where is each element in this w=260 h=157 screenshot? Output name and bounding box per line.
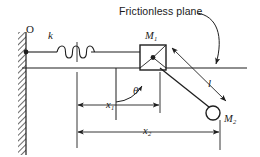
displacement-x2-subscript: 2: [148, 130, 151, 137]
mass-two-bob: [206, 106, 220, 120]
mass-two-symbol: M: [224, 113, 233, 124]
mass-one-subscript: 1: [154, 35, 157, 42]
displacement-x1-subscript: 1: [111, 104, 114, 111]
frictionless-plane-leader: [197, 13, 219, 64]
angle-theta-label: θ: [133, 86, 138, 97]
spring-constant-label: k: [48, 30, 53, 41]
mass-two-label: M2: [224, 114, 236, 125]
mass-one-label: M1: [145, 31, 157, 42]
rod-length-label: l: [208, 78, 211, 89]
origin-label: O: [26, 24, 34, 35]
displacement-x2-label: x2: [143, 126, 151, 137]
physics-diagram-canvas: Frictionless plane O k M1 M2 l θ x1 x2: [0, 0, 260, 157]
spring-assembly: [26, 46, 141, 58]
mass-one-symbol: M: [145, 30, 154, 41]
displacement-x1-symbol: x: [106, 99, 111, 110]
diagram-vector-layer: [0, 0, 260, 157]
mass-two-subscript: 2: [233, 118, 236, 125]
frictionless-plane-label: Frictionless plane: [119, 6, 203, 17]
displacement-x2-symbol: x: [143, 125, 148, 136]
pendulum-rod: [160, 68, 209, 107]
mass-one-block: [140, 45, 166, 70]
displacement-x1-label: x1: [106, 100, 114, 111]
